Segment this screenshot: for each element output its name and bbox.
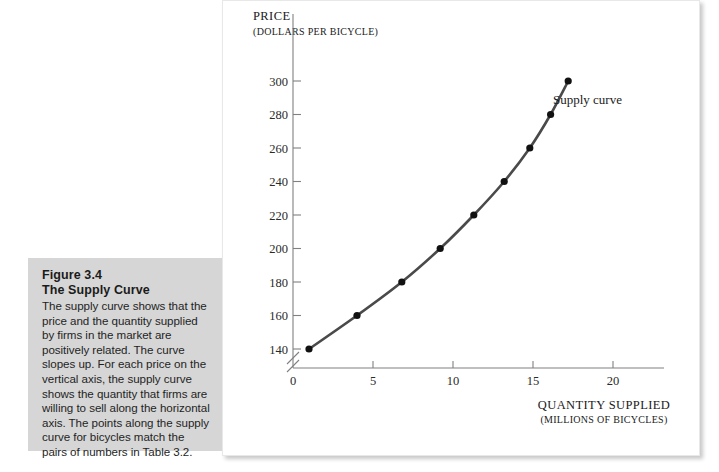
figure-chart-panel (222, 0, 700, 456)
y-axis-title: PRICE (253, 9, 290, 24)
page-background: PRICE (DOLLARS PER BICYCLE) QUANTITY SUP… (0, 0, 719, 472)
x-axis-units-label: (MILLIONS OF BICYCLES) (540, 414, 667, 425)
x-axis-title: QUANTITY SUPPLIED (538, 398, 670, 413)
figure-title: The Supply Curve (42, 283, 210, 298)
figure-caption-text: The supply curve shows that the price an… (42, 299, 210, 460)
figure-caption-block: Figure 3.4 The Supply Curve The supply c… (28, 258, 222, 451)
figure-number: Figure 3.4 (42, 268, 210, 283)
y-axis-units-label: (DOLLARS PER BICYCLE) (253, 26, 378, 37)
